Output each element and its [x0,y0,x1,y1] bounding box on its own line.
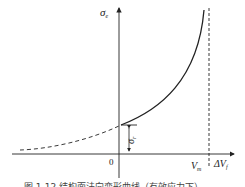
intercept-label: σr [125,136,137,144]
curve-solid-segment [121,10,204,125]
asymptote-label: Vm [191,160,202,172]
normal-deformation-diagram: σe σr 0 Vm ΔVf 图 1-12 结构面法向变形曲线（有效应力下） [0,0,245,187]
y-axis-label: σe [100,6,108,19]
x-axis-label: ΔVf [213,158,229,170]
curve-dashed-segment [20,125,121,150]
figure-caption: 图 1-12 结构面法向变形曲线（有效应力下） [24,181,203,187]
origin-label: 0 [109,157,114,167]
